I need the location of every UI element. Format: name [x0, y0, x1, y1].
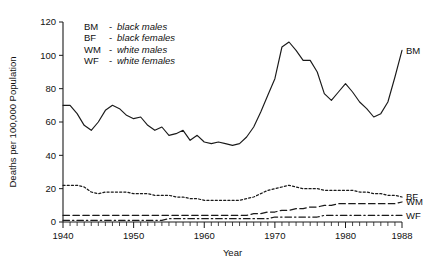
y-tick-label-60: 60: [45, 116, 56, 127]
legend-desc-wm: white males: [117, 44, 167, 55]
legend-item-bf: BF - black females: [84, 32, 175, 43]
x-tick-label-1960: 1960: [194, 230, 215, 241]
x-tick-label-1988: 1988: [391, 230, 412, 241]
legend-desc-bf: black females: [117, 32, 175, 43]
legend-item-bm: BM - black males: [84, 21, 175, 32]
y-tick-label-40: 40: [45, 150, 56, 161]
y-tick-label-100: 100: [40, 50, 56, 61]
legend-desc-bm: black males: [117, 21, 167, 32]
legend-separator-bm: -: [109, 21, 117, 32]
legend-code-bm: BM: [84, 21, 109, 32]
y-tick-label-0: 0: [51, 216, 56, 227]
x-tick-label-1940: 1940: [52, 230, 73, 241]
x-axis-title: Year: [223, 247, 242, 258]
series-label-bm: BM: [406, 45, 420, 56]
legend-separator-bf: -: [109, 32, 117, 43]
legend-separator-wf: -: [109, 55, 117, 66]
y-tick-label-20: 20: [45, 183, 56, 194]
x-tick-label-1950: 1950: [123, 230, 144, 241]
y-axis-title: Deaths per 100,000 Population: [7, 57, 18, 188]
legend-desc-wf: white females: [117, 55, 175, 66]
legend-code-wm: WM: [84, 44, 109, 55]
legend-code-bf: BF: [84, 32, 109, 43]
legend-item-wf: WF - white females: [84, 55, 175, 66]
x-tick-label-1970: 1970: [264, 230, 285, 241]
series-label-wf: WF: [406, 210, 421, 221]
x-tick-label-1980: 1980: [335, 230, 356, 241]
chart-figure: 020406080100120Deaths per 100,000 Popula…: [0, 0, 431, 263]
chart-legend: BM - black males BF - black females WM -…: [84, 21, 175, 67]
y-tick-label-80: 80: [45, 83, 56, 94]
series-line-wf: [63, 215, 402, 220]
legend-separator-wm: -: [109, 44, 117, 55]
series-line-bf: [63, 185, 402, 200]
series-line-wm: [63, 202, 402, 215]
legend-code-wf: WF: [84, 55, 109, 66]
y-tick-label-120: 120: [40, 16, 56, 27]
chart-canvas: 020406080100120Deaths per 100,000 Popula…: [0, 0, 431, 263]
legend-item-wm: WM - white males: [84, 44, 175, 55]
series-label-wm: WM: [406, 196, 423, 207]
